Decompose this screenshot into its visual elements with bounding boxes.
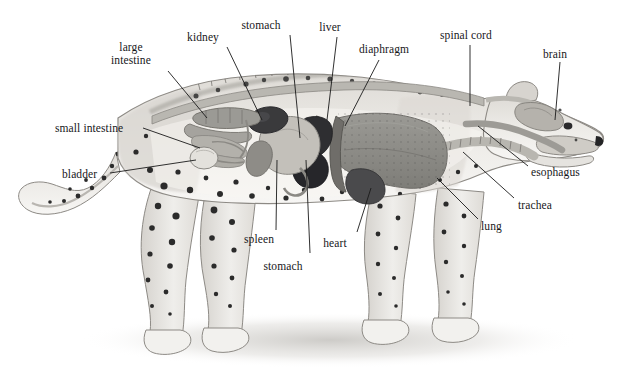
cheetah-anatomy-illustration: [0, 0, 623, 373]
label-kidney: kidney: [187, 31, 219, 44]
label-lung: lung: [481, 220, 502, 233]
label-spleen: spleen: [244, 233, 274, 246]
eye: [564, 123, 573, 130]
label-stomach-top: stomach: [241, 19, 280, 32]
label-bladder: bladder: [62, 168, 97, 181]
label-small-intestine: small intestine: [55, 122, 123, 135]
label-large-intestine: largeintestine: [111, 41, 151, 67]
label-diaphragm: diaphragm: [359, 43, 409, 56]
label-esophagus: esophagus: [531, 166, 580, 179]
label-spinal-cord: spinal cord: [440, 29, 492, 42]
anatomy-figure: largeintestinekidneystomachliverdiaphrag…: [0, 0, 623, 373]
label-large-intestine-line2: intestine: [111, 54, 151, 67]
label-brain: brain: [543, 48, 567, 61]
label-stomach-bottom: stomach: [263, 260, 302, 273]
label-liver: liver: [319, 21, 341, 34]
label-heart: heart: [323, 237, 346, 250]
label-trachea: trachea: [518, 199, 552, 212]
label-large-intestine-line1: large: [111, 41, 151, 54]
